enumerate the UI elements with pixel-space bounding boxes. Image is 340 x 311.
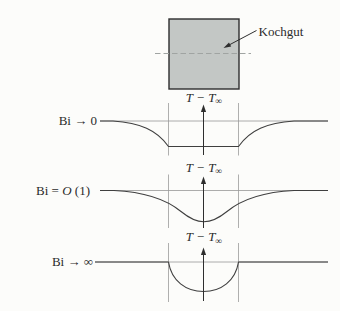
profile-bi-0-group: Bi → 0 T − T∞: [59, 90, 328, 156]
kochgut-label: Kochgut: [259, 24, 304, 39]
biot-number-temperature-profiles-diagram: Kochgut Bi → 0 T − T∞ Bi = O (1) T − T∞ …: [0, 0, 340, 311]
profile-2-bi-label: Bi = O (1): [36, 183, 90, 198]
profile-bi-o1-group: Bi = O (1) T − T∞: [36, 160, 328, 229]
profile-3-bi-label: Bi → ∞: [52, 254, 93, 269]
kochgut-group: Kochgut: [155, 19, 304, 89]
profile-1-temperature-curve: [100, 121, 328, 147]
profile-1-bi-label: Bi → 0: [59, 113, 97, 128]
profile-2-axis-label: T − T∞: [186, 160, 223, 177]
profile-3-axis-arrowhead-icon: [201, 248, 206, 256]
profile-3-axis-label: T − T∞: [186, 229, 223, 246]
profile-3-temperature-curve: [95, 262, 328, 292]
profile-2-temperature-curve: [100, 191, 328, 222]
profile-1-axis-arrowhead-icon: [201, 105, 206, 113]
biot-diagram-stage: Kochgut Bi → 0 T − T∞ Bi = O (1) T − T∞ …: [0, 0, 340, 311]
profile-1-axis-label: T − T∞: [186, 90, 223, 107]
profile-2-axis-arrowhead-icon: [201, 177, 206, 185]
profile-bi-inf-group: Bi → ∞ T − T∞: [52, 229, 328, 302]
